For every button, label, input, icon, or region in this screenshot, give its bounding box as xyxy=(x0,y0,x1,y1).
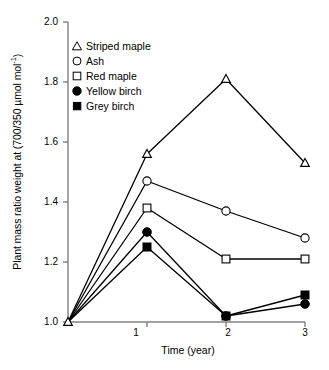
series-markers-striped-maple xyxy=(64,74,310,325)
datapoint-grey-birch-year-1 xyxy=(143,243,151,251)
axes-layer xyxy=(63,22,305,327)
series-ash xyxy=(68,181,305,322)
series-line-1 xyxy=(68,181,305,322)
plot-area xyxy=(0,0,329,370)
datapoint-grey-birch-year-2 xyxy=(222,312,230,320)
datapoint-yellow-birch-year-1 xyxy=(143,228,152,237)
datapoint-red-maple-year-2 xyxy=(222,255,230,263)
series-striped-maple xyxy=(68,79,305,322)
chart-figure: Plant mass ratio weight at (700/350 µmol… xyxy=(0,0,329,370)
series-layer xyxy=(64,74,310,325)
datapoint-ash-year-3 xyxy=(301,234,309,242)
series-line-0 xyxy=(68,79,305,322)
series-markers-yellow-birch xyxy=(143,228,310,321)
datapoint-yellow-birch-year-3 xyxy=(301,300,310,309)
datapoint-ash-year-2 xyxy=(222,207,230,215)
datapoint-red-maple-year-3 xyxy=(301,255,309,263)
datapoint-ash-year-1 xyxy=(143,177,151,185)
datapoint-grey-birch-year-3 xyxy=(301,291,309,299)
series-markers-ash xyxy=(143,177,309,242)
datapoint-red-maple-year-1 xyxy=(143,204,151,212)
datapoint-striped-maple-year-2 xyxy=(222,74,231,82)
